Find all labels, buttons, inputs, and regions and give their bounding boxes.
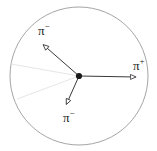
momentum-vector-pi-minus-upper bbox=[44, 45, 80, 76]
decay-vertex bbox=[76, 73, 82, 79]
label-pi-minus-upper: π− bbox=[38, 23, 50, 37]
label-pi-plus-right: π+ bbox=[133, 58, 145, 72]
pi-symbol-lower: π bbox=[63, 110, 70, 125]
pi-symbol-right: π bbox=[133, 58, 140, 73]
momentum-vector-pi-plus-right bbox=[79, 76, 136, 77]
construction-line-lower-left bbox=[17, 76, 79, 99]
charge-sign-right: + bbox=[140, 56, 145, 66]
charge-sign-upper: − bbox=[45, 21, 50, 31]
decay-diagram-canvas bbox=[0, 0, 157, 151]
decay-diagram: π− π+ π− bbox=[0, 0, 157, 151]
charge-sign-lower: − bbox=[70, 108, 75, 118]
pi-symbol-upper: π bbox=[38, 23, 45, 38]
construction-line-upper-left bbox=[11, 64, 79, 76]
label-pi-minus-lower: π− bbox=[63, 110, 75, 124]
